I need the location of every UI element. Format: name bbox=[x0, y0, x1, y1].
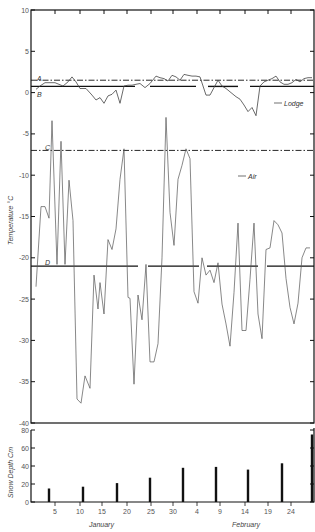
day-tick-label: 9 bbox=[218, 508, 222, 515]
temperature-axis-title: Temperature °C bbox=[7, 195, 15, 245]
snow-depth-bar bbox=[281, 463, 283, 502]
ref-label-d: D bbox=[45, 259, 50, 266]
snow-depth-bar bbox=[247, 470, 249, 502]
snow-depth-bar bbox=[149, 478, 151, 502]
temperature-snow-chart: 1050-5-10-15-20-25-30-35-40 A B C D Lodg… bbox=[0, 0, 315, 532]
snow-y-axis: 806040200 bbox=[21, 427, 314, 506]
air-annotation: Air bbox=[247, 173, 257, 180]
day-tick-label: 25 bbox=[147, 508, 155, 515]
lodge-annotation: Lodge bbox=[284, 100, 304, 108]
y-tick-label: -30 bbox=[19, 337, 29, 344]
snow-axis-title: Snow Depth Cm bbox=[7, 447, 15, 498]
y-tick-label: 0 bbox=[25, 89, 29, 96]
snow-depth-panel: 806040200 5101520253049141924 Snow Depth… bbox=[7, 427, 314, 530]
day-tick-label: 4 bbox=[195, 508, 199, 515]
snow-y-tick-label: 80 bbox=[21, 427, 29, 434]
y-tick-label: -5 bbox=[23, 130, 29, 137]
snow-depth-bar bbox=[82, 487, 84, 502]
snow-depth-bar bbox=[311, 435, 313, 503]
day-tick-label: 5 bbox=[53, 508, 57, 515]
snow-y-tick-label: 0 bbox=[25, 499, 29, 506]
snow-depth-bar bbox=[116, 483, 118, 502]
day-tick-label: 10 bbox=[76, 508, 84, 515]
y-tick-label: -25 bbox=[19, 296, 29, 303]
day-tick-label: 20 bbox=[123, 508, 131, 515]
ref-label-a: A bbox=[36, 75, 42, 82]
month-label-january: January bbox=[88, 521, 114, 529]
snow-depth-bar bbox=[48, 489, 50, 503]
day-x-axis: 5101520253049141924 bbox=[53, 502, 295, 515]
day-tick-label: 30 bbox=[169, 508, 177, 515]
y-tick-label: -20 bbox=[19, 254, 29, 261]
y-tick-label: 5 bbox=[25, 48, 29, 55]
y-tick-label: -10 bbox=[19, 172, 29, 179]
y-tick-label: 10 bbox=[21, 7, 29, 14]
snow-y-tick-label: 20 bbox=[21, 481, 29, 488]
air-temperature-line bbox=[36, 117, 310, 403]
day-tick-label: 14 bbox=[241, 508, 249, 515]
y-tick-label: -35 bbox=[19, 378, 29, 385]
snow-y-tick-label: 60 bbox=[21, 445, 29, 452]
ref-label-c: C bbox=[45, 144, 51, 151]
month-label-february: February bbox=[232, 521, 261, 529]
snow-depth-bar bbox=[215, 467, 217, 502]
temperature-panel: 1050-5-10-15-20-25-30-35-40 A B C D Lodg… bbox=[7, 7, 314, 427]
snow-depth-bar bbox=[182, 468, 184, 502]
ref-label-b: B bbox=[37, 91, 42, 98]
y-tick-label: -40 bbox=[19, 420, 29, 427]
snow-plot-frame bbox=[31, 428, 314, 502]
day-tick-label: 15 bbox=[98, 508, 106, 515]
day-tick-label: 24 bbox=[287, 508, 295, 515]
snow-depth-bars bbox=[48, 435, 313, 503]
snow-y-tick-label: 40 bbox=[21, 463, 29, 470]
y-tick-label: -15 bbox=[19, 213, 29, 220]
day-tick-label: 19 bbox=[264, 508, 272, 515]
temperature-plot-frame bbox=[31, 10, 314, 423]
